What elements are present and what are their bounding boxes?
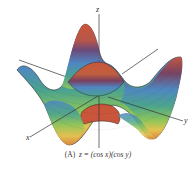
x-axis-label: x <box>26 133 30 142</box>
surface-plot <box>0 0 196 169</box>
panel-label: (A) <box>65 150 75 159</box>
figure-caption: (A) z = (cos x)(cos y) <box>0 150 196 159</box>
y-axis-label: y <box>184 116 188 125</box>
z-axis-label: z <box>96 5 99 14</box>
surface-plot-figure: z x y (A) z = (cos x)(cos y) <box>0 0 196 169</box>
x-axis-back-line <box>122 49 158 74</box>
equation: z = (cos x)(cos y) <box>79 150 131 159</box>
